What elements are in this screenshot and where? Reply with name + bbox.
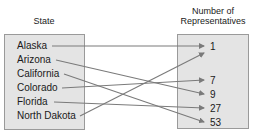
arrow-arizona-9 bbox=[56, 60, 204, 94]
mapping-arrows bbox=[0, 0, 254, 134]
arrow-north-dakota-1 bbox=[80, 53, 204, 116]
arrow-florida-27 bbox=[54, 102, 204, 108]
arrow-colorado-7 bbox=[62, 80, 204, 88]
